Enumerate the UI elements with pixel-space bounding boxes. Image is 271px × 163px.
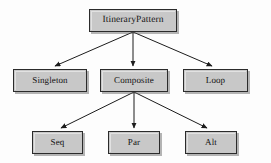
node-label-seq: Seq [51,138,65,147]
node-label-alt: Alt [205,138,217,147]
node-label-singleton: Singleton [32,76,67,85]
node-loop[interactable]: Loop [183,69,248,92]
node-label-loop: Loop [206,76,225,85]
node-seq[interactable]: Seq [32,131,83,154]
edge-composite-to-alt [134,92,207,128]
node-singleton[interactable]: Singleton [13,69,87,92]
diagram-canvas: ItineraryPattern Singleton Composite Loo… [0,0,271,163]
node-alt[interactable]: Alt [185,131,237,154]
edge-root-to-loop [133,32,212,66]
node-composite[interactable]: Composite [100,69,168,92]
node-itinerarypattern[interactable]: ItineraryPattern [89,9,177,32]
edge-root-to-singleton [55,32,133,66]
node-par[interactable]: Par [108,131,160,154]
node-label-par: Par [128,138,140,147]
node-label-itinerarypattern: ItineraryPattern [102,16,163,26]
node-label-composite: Composite [114,76,154,85]
edge-composite-to-seq [61,92,134,128]
